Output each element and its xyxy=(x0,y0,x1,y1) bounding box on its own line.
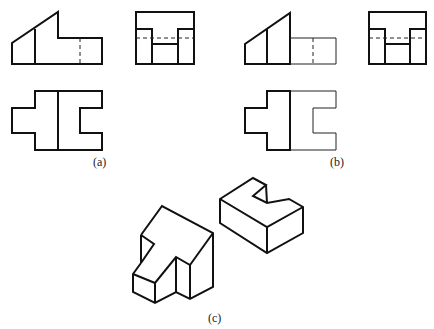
isometric-c-block xyxy=(220,178,303,253)
panel-b-label: (b) xyxy=(330,155,344,170)
panel-a-label: (a) xyxy=(93,155,106,170)
panel-a-top-view xyxy=(12,91,102,150)
panel-b-front-view xyxy=(245,13,336,64)
panel-b-top-view xyxy=(245,91,336,150)
panel-a-side-view xyxy=(136,12,194,64)
orthographic-projection-figure xyxy=(0,0,434,329)
panel-b-side-view xyxy=(369,12,426,64)
panel-c-label: (c) xyxy=(208,311,221,326)
panel-a-front-view xyxy=(12,12,102,64)
isometric-t-block xyxy=(133,206,213,303)
